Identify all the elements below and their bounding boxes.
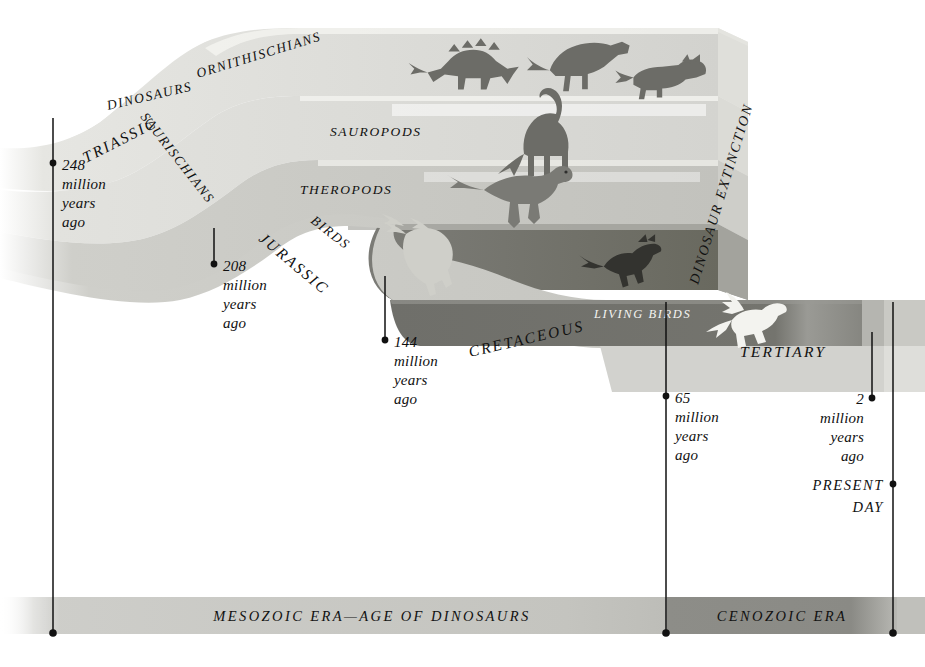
era-label-mesozoic: MESOZOIC ERA—AGE OF DINOSAURS xyxy=(212,608,530,624)
timeline-labels: TRIASSIC JURASSIC CRETACEOUS TERTIARY DI… xyxy=(0,0,925,667)
tick-dot-present xyxy=(890,481,897,488)
marker-208: 208 million years ago xyxy=(221,258,267,331)
tick-dot-144 xyxy=(382,337,389,344)
marker-144-line3: ago xyxy=(394,391,417,407)
extinction-label: DINOSAUR EXTINCTION xyxy=(686,102,756,287)
present-day-line1: PRESENT xyxy=(811,477,884,493)
present-day-line2: DAY xyxy=(852,499,885,515)
marker-2-line1: million xyxy=(820,410,864,426)
clade-label-sauropods: SAUROPODS xyxy=(330,124,422,139)
marker-2-value: 2 xyxy=(856,391,864,407)
marker-248: 248 million years ago xyxy=(60,157,106,230)
timeline-figure: TRIASSIC JURASSIC CRETACEOUS TERTIARY DI… xyxy=(0,0,925,667)
marker-2-line3: ago xyxy=(841,448,864,464)
marker-2: 2 million years ago xyxy=(820,391,864,464)
marker-248-value: 248 xyxy=(62,157,85,173)
marker-208-line3: ago xyxy=(223,315,246,331)
marker-144-line2: years xyxy=(392,372,428,388)
marker-65: 65 million years ago xyxy=(673,390,719,463)
clade-label-theropods: THEROPODS xyxy=(300,182,392,197)
clade-label-saurischians: SAURISCHIANS xyxy=(138,110,218,206)
marker-208-line2: years xyxy=(221,296,257,312)
period-label-tertiary: TERTIARY xyxy=(740,343,826,360)
tick-dot-208 xyxy=(211,261,218,268)
tick-dot-248-bottom xyxy=(49,629,57,637)
marker-65-line3: ago xyxy=(675,447,698,463)
marker-present-day: PRESENT DAY xyxy=(811,477,884,515)
marker-144: 144 million years ago xyxy=(392,334,438,407)
clade-label-birds: BIRDS xyxy=(308,213,353,253)
tick-dot-248 xyxy=(50,160,57,167)
tick-dot-2 xyxy=(869,395,876,402)
period-label-jurassic: JURASSIC xyxy=(256,229,333,297)
marker-65-line2: years xyxy=(673,428,709,444)
clade-label-living-birds: LIVING BIRDS xyxy=(593,307,691,321)
marker-208-line1: million xyxy=(223,277,267,293)
period-label-cretaceous: CRETACEOUS xyxy=(467,317,586,360)
tick-dot-65 xyxy=(663,393,670,400)
marker-248-line1: million xyxy=(62,176,106,192)
marker-144-line1: million xyxy=(394,353,438,369)
tick-dot-present-bottom xyxy=(889,629,897,637)
tick-dot-65-bottom xyxy=(662,629,670,637)
marker-248-line3: ago xyxy=(62,214,85,230)
marker-144-value: 144 xyxy=(394,334,417,350)
marker-65-value: 65 xyxy=(675,390,691,406)
marker-248-line2: years xyxy=(60,195,96,211)
marker-2-line2: years xyxy=(829,429,865,445)
marker-208-value: 208 xyxy=(223,258,246,274)
tick-marks xyxy=(49,118,897,637)
clade-label-ornithischians: ORNITHISCHIANS xyxy=(194,29,322,81)
era-label-cenozoic: CENOZOIC ERA xyxy=(717,608,848,624)
marker-65-line1: million xyxy=(675,409,719,425)
clade-label-dinosaurs: DINOSAURS xyxy=(104,79,193,113)
